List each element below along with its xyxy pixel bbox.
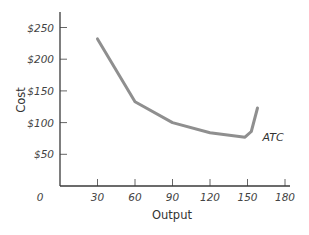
x-tick-label: 150 bbox=[237, 191, 257, 203]
x-tick-label: 0 bbox=[37, 191, 44, 203]
atc-cost-chart: $50$100$150$200$250 0306090120150180 ATC… bbox=[0, 0, 309, 235]
x-tick-label: 60 bbox=[128, 191, 142, 203]
x-tick-label: 180 bbox=[275, 191, 295, 203]
y-tick-label: $200 bbox=[27, 53, 54, 65]
x-axis-ticks: 0306090120150180 bbox=[37, 179, 296, 203]
x-tick-label: 90 bbox=[166, 191, 180, 203]
y-tick-label: $100 bbox=[27, 117, 54, 129]
y-axis-title: Cost bbox=[14, 87, 28, 113]
y-tick-label: $250 bbox=[27, 22, 54, 34]
x-tick-label: 30 bbox=[91, 191, 105, 203]
y-tick-label: $50 bbox=[34, 148, 54, 160]
y-tick-label: $150 bbox=[27, 85, 54, 97]
atc-curve bbox=[98, 39, 258, 137]
atc-label: ATC bbox=[262, 131, 284, 144]
y-axis-ticks: $50$100$150$200$250 bbox=[27, 22, 67, 161]
x-tick-label: 120 bbox=[200, 191, 220, 203]
x-axis-title: Output bbox=[152, 208, 192, 222]
